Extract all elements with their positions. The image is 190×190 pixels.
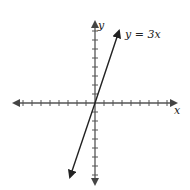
coordinate-plane: y x y = 3x [0,0,190,190]
line-y-3x [95,31,119,103]
equation-label: y = 3x [124,28,161,41]
x-axis-label: x [174,104,181,117]
line-y-3x-lower [70,103,95,177]
graph: y x y = 3x [0,0,190,190]
y-axis-label: y [97,19,105,32]
